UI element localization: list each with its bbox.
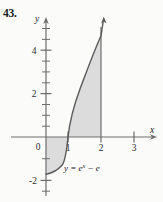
x-axis-label: x [149,125,155,135]
y-tick-label-2: 2 [32,89,37,99]
y-axis-label: y [34,14,40,24]
x-tick-label-2: 2 [99,143,104,153]
x-tick-label-3: 3 [132,143,137,153]
y-tick-label-minus-2: -2 [29,176,37,186]
function-label-rhs: − e [85,163,100,173]
function-label: y = ex − e [63,163,100,174]
x-tick-label-0: 0 [36,142,41,152]
x-tick-label-1: 1 [66,143,71,153]
figure-screenshot: 43. [0,0,163,202]
y-tick-label-4: 4 [32,46,37,56]
graph-figure: 4 2 -2 0 1 2 3 y x y = ex − e [0,0,163,202]
function-label-lhs: y = e [63,163,83,173]
